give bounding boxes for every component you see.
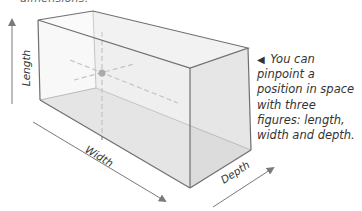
left-pointer-icon: ◀ (257, 54, 265, 65)
caption-text: You can pinpoint a position in space wit… (257, 52, 355, 142)
length-label: Length (20, 50, 32, 86)
box-front (38, 11, 251, 188)
caption: ◀ You can pinpoint a position in space w… (257, 52, 361, 143)
